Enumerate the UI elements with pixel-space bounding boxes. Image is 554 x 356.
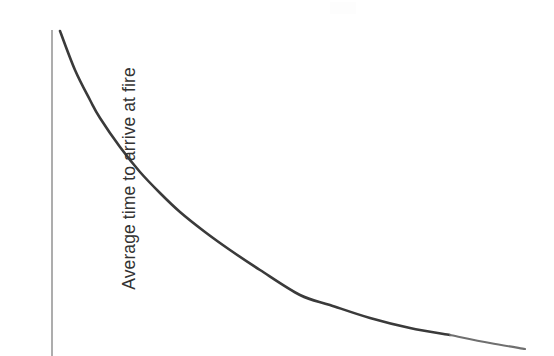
data-curve-tail-fade — [450, 335, 525, 349]
plot-area — [0, 0, 554, 356]
data-curve-average-time-to-arrive-at-fire — [60, 31, 450, 335]
chart-figure: Average time to arrive at fire — [0, 0, 554, 356]
